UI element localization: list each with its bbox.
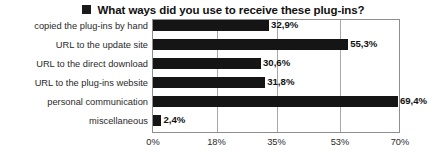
bar-row: 31,8%	[153, 77, 400, 88]
x-tick-label: 18%	[194, 137, 240, 148]
bar-chart-figure: What ways did you use to receive these p…	[0, 0, 446, 162]
bar-row: 32,9%	[153, 20, 400, 31]
bar-value-label: 31,8%	[265, 76, 294, 88]
category-axis: copied the plug-ins by handURL to the up…	[0, 19, 148, 133]
category-label: copied the plug-ins by hand	[0, 21, 148, 31]
bar	[153, 115, 161, 126]
bar-value-label: 55,3%	[348, 38, 377, 50]
bar-value-label: 2,4%	[161, 114, 185, 126]
bar	[153, 20, 269, 31]
black-square-marker-icon	[82, 5, 91, 14]
bar	[153, 58, 261, 69]
x-axis-tick-labels: 0%18%35%53%70%	[0, 137, 446, 151]
bar-row: 30,6%	[153, 58, 400, 69]
bar	[153, 96, 398, 107]
bars-layer: 32,9%55,3%30,6%31,8%69,4%2,4%	[153, 19, 400, 133]
category-label: URL to the direct download	[0, 59, 148, 69]
x-tick-label: 35%	[254, 137, 300, 148]
bar-row: 69,4%	[153, 96, 400, 107]
category-label: miscellaneous	[0, 116, 148, 126]
x-tick-label: 0%	[130, 137, 176, 148]
bar-value-label: 30,6%	[261, 57, 290, 69]
bar	[153, 39, 348, 50]
bar-value-label: 32,9%	[269, 19, 298, 31]
x-tick-label: 70%	[377, 137, 423, 148]
bar-value-label: 69,4%	[398, 95, 427, 107]
category-label: URL to the plug-ins website	[0, 78, 148, 88]
chart-title-text: What ways did you use to receive these p…	[98, 4, 365, 16]
category-label: personal communication	[0, 97, 148, 107]
x-tick-label: 53%	[317, 137, 363, 148]
bar-row: 55,3%	[153, 39, 400, 50]
bar	[153, 77, 265, 88]
category-label: URL to the update site	[0, 40, 148, 50]
bar-row: 2,4%	[153, 115, 400, 126]
chart-title: What ways did you use to receive these p…	[0, 1, 446, 18]
